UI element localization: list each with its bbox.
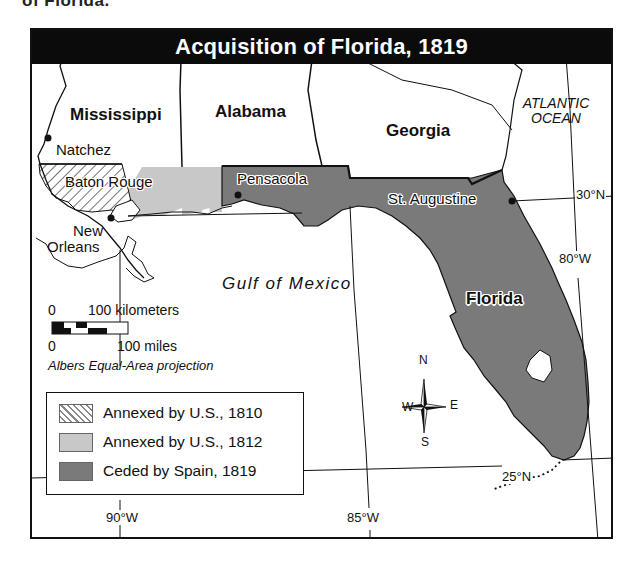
label-baton-rouge: Baton Rouge [65,173,153,190]
label-80w: 80°W [558,251,592,266]
scale-bar [52,322,128,334]
label-mississippi: Mississippi [70,105,162,125]
label-st-augustine: St. Augustine [388,190,476,207]
label-atlantic-line1: ATLANTIC [520,96,592,111]
legend-item-annexed-1810: Annexed by U.S., 1810 [59,402,262,424]
map-legend: Annexed by U.S., 1810 Annexed by U.S., 1… [46,392,304,495]
label-alabama: Alabama [215,102,286,122]
swatch-dark-grey [59,462,93,481]
label-30n: 30°N [575,187,606,202]
new-orleans-dot [108,215,115,222]
compass-s: S [421,435,429,449]
legend-label: Ceded by Spain, 1819 [103,462,256,480]
label-ocean-line2: OCEAN [520,111,592,126]
compass-w: W [402,400,413,414]
projection-note: Albers Equal-Area projection [48,358,213,373]
natchez-dot [45,135,52,142]
map-frame: Acquisition of Florida, 1819 Mississippi… [30,28,613,539]
compass-e: E [450,398,458,412]
scale-km-label: 100 kilometers [88,302,179,318]
compass-n: N [419,353,428,367]
label-new-orleans-1: New [73,222,103,239]
legend-item-annexed-1812: Annexed by U.S., 1812 [59,431,262,453]
scale-mi-label: 100 miles [117,338,177,354]
label-atlantic-ocean: ATLANTIC OCEAN [520,96,592,126]
pensacola-dot [235,192,242,199]
top-text-fragment: of Florida. [22,0,110,11]
label-25n: 25°N [501,469,532,484]
scale-mi-zero: 0 [48,338,56,354]
label-georgia: Georgia [386,121,450,141]
legend-item-ceded-1819: Ceded by Spain, 1819 [59,460,256,482]
label-85w: 85°W [346,510,380,525]
swatch-light-grey [59,433,93,452]
label-natchez: Natchez [56,141,111,158]
label-pensacola: Pensacola [237,170,307,187]
label-florida: Florida [466,289,523,309]
map-title: Acquisition of Florida, 1819 [32,30,611,64]
swatch-hatched [59,404,93,423]
label-90w: 90°W [105,510,139,525]
label-new-orleans-2: Orleans [47,238,100,255]
st-augustine-dot [509,198,516,205]
scale-km-zero: 0 [48,302,56,318]
label-gulf-of-mexico: Gulf of Mexico [222,274,352,294]
graticule-85w [350,206,370,539]
legend-label: Annexed by U.S., 1810 [103,404,262,422]
legend-label: Annexed by U.S., 1812 [103,433,262,451]
